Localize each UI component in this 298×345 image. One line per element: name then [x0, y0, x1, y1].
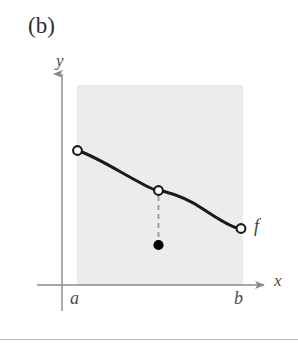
panel-label: (b): [28, 14, 55, 37]
open-point-interior: [154, 186, 163, 195]
x-axis-label: x: [274, 272, 282, 289]
open-point-right-endpoint: [237, 224, 246, 233]
figure-panel-b: (b) y x a b f: [0, 0, 298, 345]
figure-canvas: [0, 0, 298, 345]
bottom-divider: [0, 339, 298, 340]
open-point-left-endpoint: [73, 146, 82, 155]
filled-point-function-value: [153, 240, 163, 250]
x-tick-label-b: b: [234, 289, 243, 307]
shaded-region: [77, 85, 243, 285]
x-tick-label-a: a: [70, 289, 79, 307]
function-name-label: f: [254, 217, 259, 235]
y-axis-label: y: [56, 52, 64, 69]
